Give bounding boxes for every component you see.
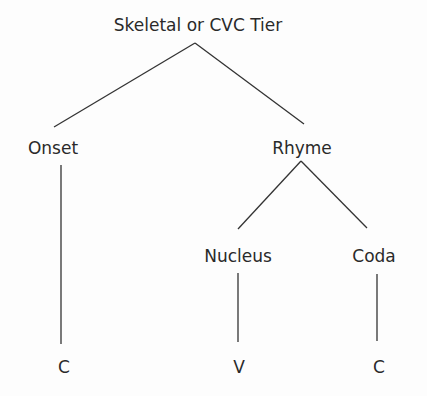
nucleus-label: Nucleus	[204, 248, 272, 265]
edge-root-onset	[54, 43, 195, 127]
tree-edges	[0, 0, 427, 396]
edge-rhyme-nucleus	[238, 161, 301, 229]
coda-label: Coda	[352, 248, 395, 265]
coda-slot-label: C	[373, 359, 385, 376]
nucleus-slot-label: V	[233, 359, 245, 376]
root-label: Skeletal or CVC Tier	[114, 17, 282, 34]
rhyme-label: Rhyme	[272, 140, 332, 157]
syllable-tree-diagram: Skeletal or CVC Tier Onset Rhyme Nucleus…	[0, 0, 427, 396]
onset-label: Onset	[28, 140, 78, 157]
edge-root-rhyme	[195, 43, 304, 124]
onset-slot-label: C	[58, 359, 70, 376]
edge-rhyme-coda	[301, 161, 367, 228]
